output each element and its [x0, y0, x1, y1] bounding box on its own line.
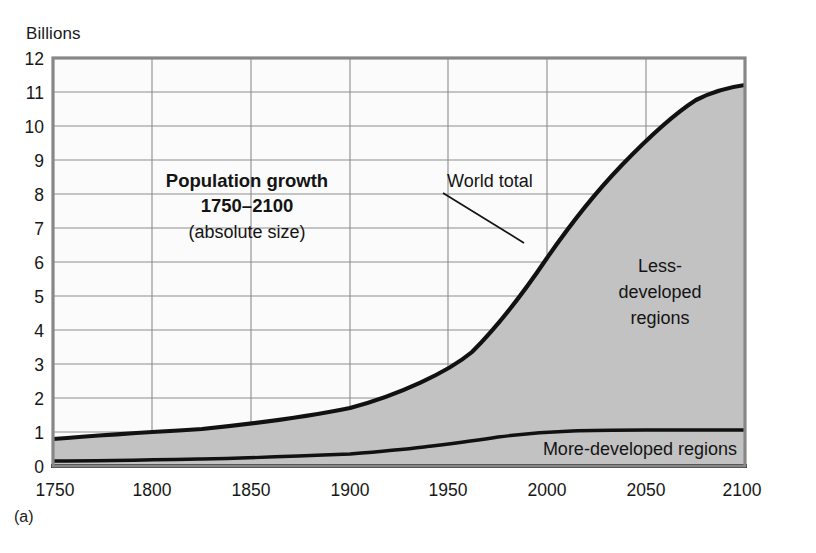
x-tick-2000: 2000	[528, 480, 567, 500]
y-tick-2: 2	[34, 389, 44, 409]
y-tick-1: 1	[34, 423, 44, 443]
x-tick-1750: 1750	[36, 480, 75, 500]
x-tick-2050: 2050	[627, 480, 666, 500]
y-tick-7: 7	[34, 219, 44, 239]
y-tick-9: 9	[34, 151, 44, 171]
y-tick-4: 4	[34, 321, 44, 341]
more-developed-regions-label: More-developed regions	[543, 439, 737, 459]
x-tick-1800: 1800	[133, 480, 172, 500]
less-developed-label-line-3: regions	[630, 308, 689, 328]
less-developed-label-line-2: developed	[618, 282, 701, 302]
population-growth-area-chart: 12 11 10 9 8 7 6 5 4 3 2 1 0 1750 1800 1…	[0, 0, 816, 553]
x-axis-tick-labels: 1750 1800 1850 1900 1950 2000 2050 2100	[36, 480, 762, 500]
y-tick-8: 8	[34, 185, 44, 205]
less-developed-label-line-1: Less-	[638, 256, 682, 276]
x-tick-1900: 1900	[331, 480, 370, 500]
chart-title-line-1: Population growth	[166, 170, 328, 191]
panel-label: (a)	[14, 508, 34, 526]
y-tick-3: 3	[34, 355, 44, 375]
chart-title-line-3: (absolute size)	[188, 222, 305, 242]
x-tick-1850: 1850	[232, 480, 271, 500]
world-total-callout-label: World total	[447, 171, 533, 191]
y-axis-tick-labels: 12 11 10 9 8 7 6 5 4 3 2 1 0	[25, 49, 45, 477]
x-tick-1950: 1950	[429, 480, 468, 500]
chart-title-line-2: 1750–2100	[201, 195, 294, 216]
y-tick-5: 5	[34, 287, 44, 307]
y-tick-10: 10	[25, 117, 45, 137]
y-tick-12: 12	[25, 49, 44, 69]
x-tick-2100: 2100	[723, 480, 762, 500]
y-tick-0: 0	[34, 457, 44, 477]
figure-panel-a: Billions	[0, 0, 816, 553]
y-tick-6: 6	[34, 253, 44, 273]
y-tick-11: 11	[26, 83, 44, 103]
